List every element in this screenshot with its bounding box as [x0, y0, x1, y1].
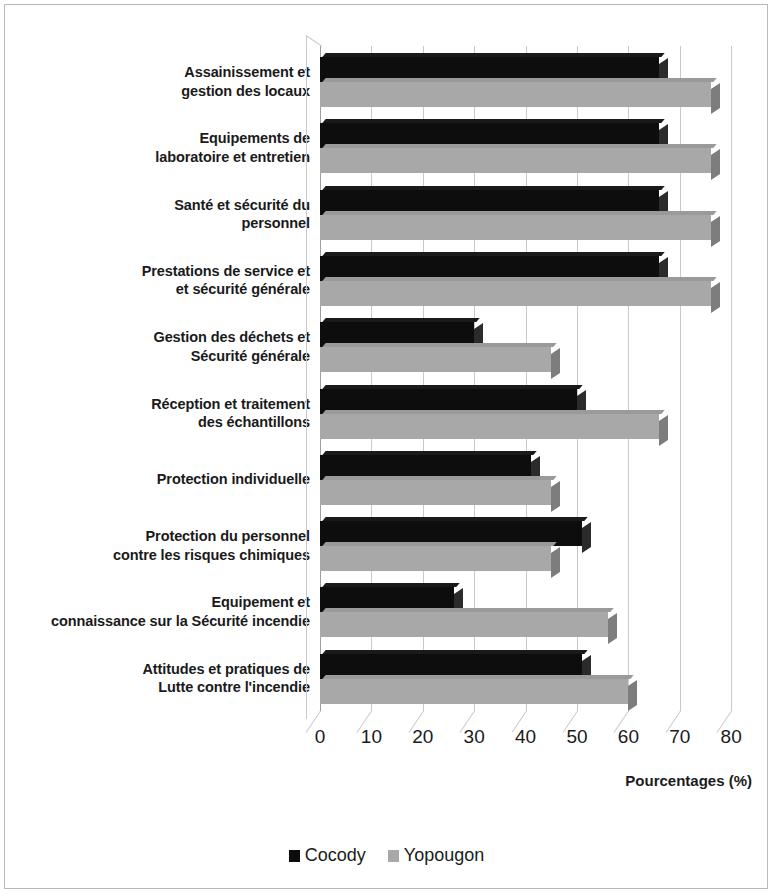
- bar-yopougon: [320, 679, 628, 704]
- bar-body: [320, 82, 711, 107]
- bar-top-face: [322, 78, 716, 82]
- bar-group: [320, 521, 742, 579]
- bar-group: [320, 256, 742, 314]
- category-label-line: des échantillons: [10, 413, 310, 432]
- category-label-line: Protection individuelle: [10, 470, 310, 489]
- bar-yopougon: [320, 414, 659, 439]
- category-label: Gestion des déchets etSécurité générale: [10, 328, 310, 365]
- bar-top-face: [322, 476, 557, 480]
- category-axis-labels: Assainissement etgestion des locauxEquip…: [10, 46, 310, 711]
- legend-label: Yopougon: [404, 845, 484, 866]
- bar-top-face: [322, 608, 613, 612]
- category-label-line: Lutte contre l'incendie: [10, 678, 310, 697]
- bar-group: [320, 123, 742, 181]
- bar-yopougon: [320, 612, 608, 637]
- x-tick-label-20: 20: [403, 726, 443, 748]
- bar-top-face: [322, 583, 459, 587]
- bar-end-cap: [711, 282, 720, 313]
- bar-group: [320, 455, 742, 513]
- bar-top-face: [322, 385, 582, 389]
- bar-top-face: [322, 650, 587, 654]
- category-label-line: Prestations de service et: [10, 262, 310, 281]
- chart-figure: Assainissement etgestion des locauxEquip…: [0, 0, 773, 894]
- x-tick-label-10: 10: [351, 726, 391, 748]
- category-label-line: Sécurité générale: [10, 347, 310, 366]
- category-label-line: gestion des locaux: [10, 82, 310, 101]
- category-label-line: contre les risques chimiques: [10, 546, 310, 565]
- category-label: Prestations de service etet sécurité gén…: [10, 262, 310, 299]
- square-marker-dark-icon: [289, 850, 300, 862]
- bar-body: [320, 215, 711, 240]
- bar-yopougon: [320, 82, 711, 107]
- bar-group: [320, 190, 742, 248]
- bar-body: [320, 347, 551, 372]
- bar-end-cap: [551, 547, 560, 578]
- category-label-line: Gestion des déchets et: [10, 328, 310, 347]
- bar-end-cap: [628, 680, 637, 711]
- bar-end-cap: [711, 149, 720, 180]
- x-axis-tick-labels: 01020304050607080: [320, 726, 760, 752]
- bar-top-face: [322, 410, 665, 414]
- bar-top-face: [322, 119, 665, 123]
- bar-top-face: [322, 343, 557, 347]
- category-label-line: Attitudes et pratiques de: [10, 660, 310, 679]
- x-tick-label-80: 80: [711, 726, 751, 748]
- bar-top-face: [322, 542, 557, 546]
- bar-top-face: [322, 517, 587, 521]
- category-label-line: Assainissement et: [10, 63, 310, 82]
- category-label-line: Protection du personnel: [10, 527, 310, 546]
- bar-end-cap: [551, 348, 560, 379]
- x-tick-label-40: 40: [506, 726, 546, 748]
- bar-yopougon: [320, 480, 551, 505]
- bar-body: [320, 679, 628, 704]
- bar-top-face: [322, 211, 716, 215]
- bar-top-face: [322, 186, 665, 190]
- bar-end-cap: [711, 83, 720, 114]
- category-label-line: laboratoire et entretien: [10, 148, 310, 167]
- x-axis-title: Pourcentages (%): [0, 772, 752, 789]
- bar-end-cap: [582, 522, 591, 553]
- bar-top-face: [322, 675, 634, 679]
- bar-top-face: [322, 318, 480, 322]
- x-tick-label-0: 0: [300, 726, 340, 748]
- legend-label: Cocody: [305, 845, 366, 866]
- category-label: Protection individuelle: [10, 470, 310, 489]
- category-label-line: personnel: [10, 214, 310, 233]
- plot-area: [320, 46, 742, 711]
- bar-top-face: [322, 252, 665, 256]
- x-tick-label-50: 50: [557, 726, 597, 748]
- category-label-line: Réception et traitement: [10, 395, 310, 414]
- bar-end-cap: [659, 414, 668, 445]
- plot-depth-top: [306, 35, 322, 46]
- bar-top-face: [322, 277, 716, 281]
- bar-yopougon: [320, 546, 551, 571]
- bar-group: [320, 654, 742, 712]
- square-marker-gray-icon: [388, 850, 399, 862]
- bar-top-face: [322, 144, 716, 148]
- x-tick-label-30: 30: [454, 726, 494, 748]
- bar-yopougon: [320, 148, 711, 173]
- category-label-line: Equipement et: [10, 593, 310, 612]
- category-label: Equipement etconnaissance sur la Sécurit…: [10, 593, 310, 630]
- bar-group: [320, 389, 742, 447]
- chart-legend: CocodyYopougon: [0, 845, 773, 866]
- category-label: Assainissement etgestion des locaux: [10, 63, 310, 100]
- bar-yopougon: [320, 281, 711, 306]
- bar-body: [320, 281, 711, 306]
- bar-group: [320, 587, 742, 645]
- bar-body: [320, 612, 608, 637]
- bar-group: [320, 57, 742, 115]
- bar-end-cap: [711, 216, 720, 247]
- category-label: Santé et sécurité dupersonnel: [10, 196, 310, 233]
- bar-body: [320, 148, 711, 173]
- legend-item-cocody[interactable]: Cocody: [289, 845, 366, 866]
- bar-top-face: [322, 53, 665, 57]
- category-label-line: connaissance sur la Sécurité incendie: [10, 612, 310, 631]
- bar-group: [320, 322, 742, 380]
- bar-yopougon: [320, 347, 551, 372]
- bar-top-face: [322, 451, 536, 455]
- category-label-line: Santé et sécurité du: [10, 196, 310, 215]
- bar-body: [320, 546, 551, 571]
- legend-item-yopougon[interactable]: Yopougon: [388, 845, 484, 866]
- category-label: Attitudes et pratiques deLutte contre l'…: [10, 660, 310, 697]
